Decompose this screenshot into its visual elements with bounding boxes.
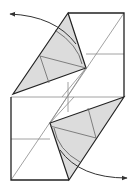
lower-right-flap bbox=[50, 97, 124, 180]
origami-diagram bbox=[0, 0, 134, 191]
